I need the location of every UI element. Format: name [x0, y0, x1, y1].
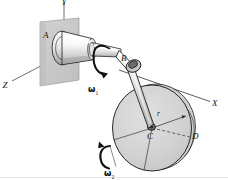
- figure-container: Y Z ω 1 X: [0, 0, 228, 180]
- point-c-label: C: [147, 131, 154, 141]
- radius-label: r: [157, 109, 160, 118]
- point-b-label: B: [121, 53, 127, 63]
- axis-y-label: Y: [62, 0, 68, 7]
- omega2-axis-line: [110, 146, 116, 167]
- point-d-label: D: [191, 131, 199, 141]
- omega1-arrowhead: [101, 72, 109, 79]
- omega2-rotation-arc: [100, 146, 110, 169]
- point-a-label: A: [42, 30, 49, 40]
- axis-x-label: X: [211, 98, 218, 108]
- mechanism-diagram: Y Z ω 1 X: [0, 0, 228, 180]
- omega1-subscript: 1: [96, 90, 99, 96]
- axis-z-label: Z: [3, 80, 9, 90]
- omega2-subscript: 2: [112, 174, 115, 180]
